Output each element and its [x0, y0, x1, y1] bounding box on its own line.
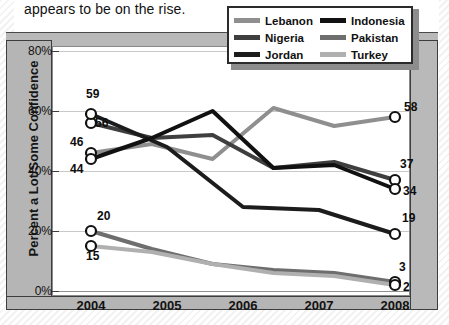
value-label-pakistan-start: 20: [97, 209, 110, 223]
legend-item-pakistan: Pakistan: [320, 32, 406, 44]
series-line-pakistan: [91, 231, 395, 282]
y-axis-ticks: 0%20%40%60%80%: [4, 46, 52, 296]
x-tick-label-2005: 2005: [153, 298, 182, 313]
legend-row: LebanonIndonesia: [234, 12, 406, 29]
value-label-jordan-end: 19: [402, 211, 415, 225]
legend-swatch-pakistan: [320, 35, 346, 40]
legend-label-nigeria: Nigeria: [265, 32, 304, 44]
value-label-nigeria-end: 37: [400, 157, 413, 171]
y-tick-mark-60: [52, 111, 59, 112]
y-tick-label-20: 20%: [8, 224, 52, 238]
legend-row: JordanTurkey: [234, 46, 406, 63]
marker-indonesia-start: [86, 154, 96, 164]
marker-lebanon-end: [390, 112, 400, 122]
value-label-indonesia-end: 34: [403, 184, 416, 198]
legend-box: LebanonIndonesiaNigeriaPakistanJordanTur…: [227, 6, 413, 64]
y-tick-mark-80: [52, 51, 59, 52]
value-label-pakistan-end: 3: [399, 260, 406, 274]
legend-item-jordan: Jordan: [234, 49, 320, 61]
value-label-turkey-end: 2: [403, 280, 410, 294]
y-tick-label-0: 0%: [8, 284, 52, 298]
frame-right-panel: [410, 40, 438, 310]
value-label-indonesia-start: 44: [70, 162, 83, 176]
legend-label-turkey: Turkey: [351, 49, 388, 61]
value-label-turkey-start: 15: [86, 249, 99, 263]
legend-swatch-jordan: [234, 52, 260, 57]
x-tick-label-2007: 2007: [305, 298, 334, 313]
value-label-lebanon-end: 58: [404, 100, 417, 114]
legend-label-lebanon: Lebanon: [265, 15, 313, 27]
legend: LebanonIndonesiaNigeriaPakistanJordanTur…: [227, 6, 419, 70]
marker-turkey-end: [390, 280, 400, 290]
marker-pakistan-start: [86, 226, 96, 236]
legend-row: NigeriaPakistan: [234, 29, 406, 46]
x-tick-label-2008: 2008: [381, 298, 410, 313]
legend-swatch-indonesia: [320, 18, 346, 23]
y-tick-label-40: 40%: [8, 164, 52, 178]
legend-item-lebanon: Lebanon: [234, 15, 320, 27]
plot-inner: [53, 47, 409, 295]
x-tick-label-2004: 2004: [77, 298, 106, 313]
value-label-lebanon-start: 46: [70, 135, 83, 149]
legend-item-nigeria: Nigeria: [234, 32, 320, 44]
value-label-nigeria-start: 56: [95, 116, 108, 130]
legend-item-turkey: Turkey: [320, 49, 406, 61]
value-label-jordan-start: 59: [86, 87, 99, 101]
y-tick-label-80: 80%: [8, 44, 52, 58]
plot-area: [52, 46, 410, 296]
x-axis-ticks: 20042005200620072008: [52, 298, 410, 320]
y-tick-mark-20: [52, 231, 59, 232]
legend-swatch-lebanon: [234, 18, 260, 23]
legend-swatch-turkey: [320, 52, 346, 57]
x-tick-label-2006: 2006: [229, 298, 258, 313]
chart-lines: [53, 47, 409, 295]
y-tick-label-60: 60%: [8, 104, 52, 118]
legend-label-jordan: Jordan: [265, 49, 303, 61]
marker-jordan-end: [390, 229, 400, 239]
marker-indonesia-end: [390, 184, 400, 194]
legend-item-indonesia: Indonesia: [320, 15, 406, 27]
y-tick-mark-40: [52, 171, 59, 172]
legend-swatch-nigeria: [234, 35, 260, 40]
y-tick-mark-0: [52, 291, 59, 292]
caption-text: appears to be on the rise.: [24, 1, 185, 17]
legend-label-pakistan: Pakistan: [351, 32, 398, 44]
legend-label-indonesia: Indonesia: [351, 15, 405, 27]
